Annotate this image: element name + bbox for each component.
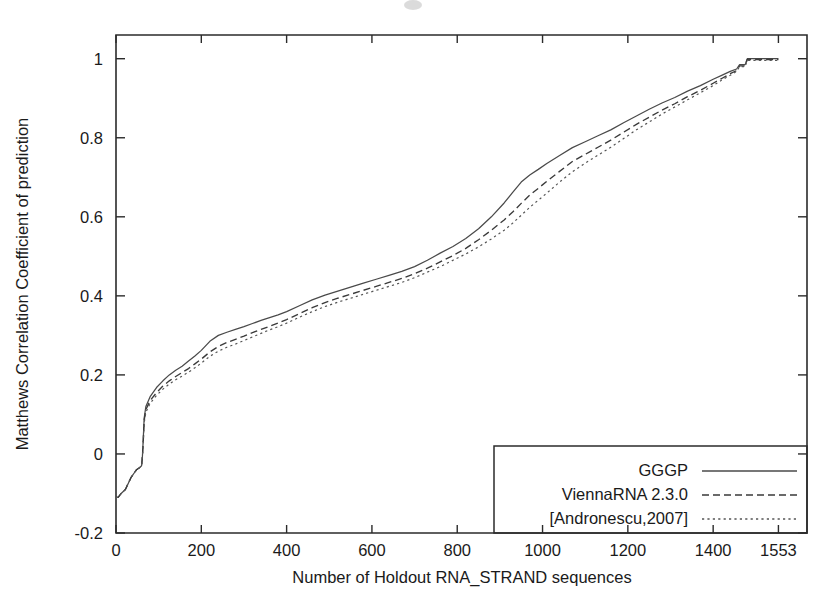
x-axis-title: Number of Holdout RNA_STRAND sequences bbox=[292, 568, 631, 587]
x-tick-label: 1553 bbox=[760, 541, 797, 559]
x-tick-label: 1400 bbox=[695, 541, 732, 559]
x-tick-label: 1000 bbox=[524, 541, 561, 559]
x-tick-label: 800 bbox=[443, 541, 471, 559]
chart-canvas: 02004006008001000120014001553 -0.200.20.… bbox=[0, 0, 830, 614]
legend-label: ViennaRNA 2.3.0 bbox=[562, 485, 688, 503]
x-tick-label: 600 bbox=[358, 541, 386, 559]
y-tick-label: 0.6 bbox=[80, 208, 103, 226]
scan-artifact bbox=[404, 0, 422, 10]
x-tick-label: 1200 bbox=[609, 541, 646, 559]
y-tick-label: 0.4 bbox=[80, 287, 103, 305]
legend-label: GGGP bbox=[638, 461, 688, 479]
y-tick-label: -0.2 bbox=[75, 524, 103, 542]
y-tick-label: 0.8 bbox=[80, 129, 103, 147]
chart-background bbox=[0, 0, 830, 614]
x-tick-label: 200 bbox=[188, 541, 216, 559]
y-tick-label: 0 bbox=[94, 445, 103, 463]
y-axis-title: Matthews Correlation Coefficient of pred… bbox=[13, 118, 31, 451]
y-tick-label: 1 bbox=[94, 50, 103, 68]
legend-label: [Andronescu,2007] bbox=[549, 509, 688, 527]
y-tick-label: 0.2 bbox=[80, 366, 103, 384]
x-axis-tick-labels: 02004006008001000120014001553 bbox=[111, 541, 796, 559]
x-tick-label: 0 bbox=[111, 541, 120, 559]
chart-figure: 02004006008001000120014001553 -0.200.20.… bbox=[0, 0, 830, 614]
x-tick-label: 400 bbox=[273, 541, 301, 559]
